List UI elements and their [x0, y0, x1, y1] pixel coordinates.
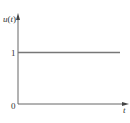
y-axis-label: u(t)	[3, 14, 16, 24]
x-axis-label: t	[123, 105, 126, 115]
step-function-plot: u(t) 1 0 t	[0, 0, 130, 123]
y-axis-arrow-icon	[16, 13, 20, 20]
y-tick-label-1: 1	[11, 48, 16, 58]
origin-label: 0	[11, 101, 16, 111]
